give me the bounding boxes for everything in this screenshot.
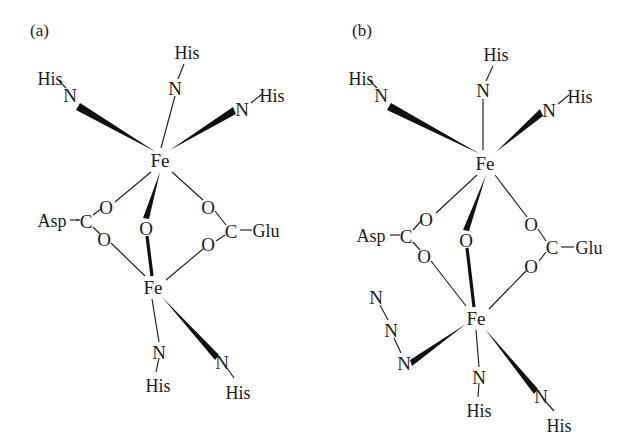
- bond-fe1-n-upper-center: [161, 96, 175, 148]
- histidine-upper-left: His: [37, 69, 62, 89]
- fe-upper-label: Fe: [151, 150, 170, 171]
- chemical-structure-figure: (a): [0, 0, 637, 444]
- fe-lower-label-b: Fe: [467, 308, 486, 329]
- residue-glu-label-b: Glu: [576, 238, 603, 258]
- bond-azide-n3-fe2: [410, 324, 466, 366]
- histidine-lower-right: His: [225, 383, 250, 403]
- oxygen-asp-lower: O: [97, 229, 111, 250]
- bond-fe1-n-upper-left-b: [387, 103, 480, 154]
- panel-b-label: (b): [352, 21, 372, 40]
- panel-a: (a): [30, 21, 285, 403]
- bond-fe1-o-glu-b: [495, 175, 527, 217]
- bond-fe1-n-upper-left: [76, 103, 156, 152]
- residue-glu-label: Glu: [253, 221, 280, 241]
- oxygen-asp-upper: O: [99, 197, 113, 218]
- nitrogen-lower-center: N: [152, 342, 166, 363]
- bridging-oxo-label-b: O: [459, 230, 473, 251]
- oxygen-glu-lower: O: [201, 234, 215, 255]
- bond-fe2-n-lower-right-b: [485, 329, 538, 394]
- nitrogen-upper-center-b: N: [476, 80, 490, 101]
- nitrogen-upper-left-b: N: [374, 85, 388, 106]
- bond-o-glu-lower-c: [216, 235, 225, 241]
- bond-fe1-n-upper-right-b: [496, 109, 543, 152]
- histidine-upper-right: His: [259, 86, 284, 106]
- bond-fe1-n-upper-right: [170, 107, 236, 150]
- nitrogen-lower-right-b: N: [534, 386, 548, 407]
- histidine-upper-left-b: His: [348, 69, 373, 89]
- bond-o-asp-fe2: [111, 243, 145, 276]
- bond-fe1-o-asp: [115, 172, 151, 202]
- bond-fe1-o-glu: [172, 172, 203, 200]
- bond-n-his-upper-center: [178, 64, 184, 79]
- bond-fe2-n-lower-center: [152, 299, 159, 342]
- bond-oxo-fe2-b: [467, 248, 474, 307]
- carboxyl-carbon-glu-b: C: [546, 237, 559, 258]
- nitrogen-upper-center: N: [168, 78, 182, 99]
- oxygen-glu-lower-b: O: [524, 256, 538, 277]
- fe-upper-label-b: Fe: [476, 153, 495, 174]
- carboxyl-carbon-asp: C: [80, 211, 93, 232]
- bond-o-asp-fe2-b: [431, 261, 466, 306]
- nitrogen-upper-right: N: [235, 99, 249, 120]
- bond-fe2-n-lower-right: [162, 297, 219, 360]
- oxygen-asp-lower-b: O: [417, 246, 431, 267]
- histidine-upper-center: His: [174, 43, 199, 63]
- bridging-oxo-label: O: [139, 218, 153, 239]
- nitrogen-lower-center-b: N: [472, 367, 486, 388]
- azide-nitrogen-terminal: N: [369, 287, 383, 308]
- histidine-lower-center: His: [145, 376, 170, 396]
- bond-fe1-o-asp-b: [436, 175, 477, 213]
- nitrogen-lower-right: N: [215, 352, 229, 373]
- bond-n-his-upper-center-b: [486, 66, 493, 81]
- bond-fe1-oxo: [143, 172, 160, 219]
- bond-fe2-n-lower-center-b: [476, 330, 479, 367]
- carboxyl-carbon-asp-b: C: [400, 226, 413, 247]
- structure-canvas: (a): [0, 0, 637, 444]
- fe-lower-label: Fe: [144, 277, 163, 298]
- oxygen-glu-upper: O: [201, 197, 215, 218]
- bond-o-glu-fe2: [166, 249, 203, 280]
- nitrogen-upper-left: N: [63, 85, 77, 106]
- panel-a-label: (a): [30, 21, 49, 40]
- azide-nitrogen-central: N: [384, 320, 398, 341]
- carboxyl-carbon-glu: C: [225, 221, 238, 242]
- oxygen-asp-upper-b: O: [419, 209, 433, 230]
- azide-nitrogen-coordinating: N: [397, 353, 411, 374]
- nitrogen-upper-right-b: N: [542, 100, 556, 121]
- histidine-lower-right-b: His: [546, 416, 571, 436]
- residue-asp-label-b: Asp: [356, 226, 385, 246]
- bond-o-glu-fe2-b: [489, 271, 526, 309]
- histidine-lower-center-b: His: [466, 401, 491, 421]
- histidine-upper-right-b: His: [567, 87, 592, 107]
- oxygen-glu-upper-b: O: [524, 214, 538, 235]
- panel-b: (b): [348, 21, 602, 436]
- residue-asp-label: Asp: [37, 211, 66, 231]
- bond-oxo-fe2: [147, 236, 152, 276]
- bond-fe1-oxo-b: [463, 175, 486, 231]
- histidine-upper-center-b: His: [483, 45, 508, 65]
